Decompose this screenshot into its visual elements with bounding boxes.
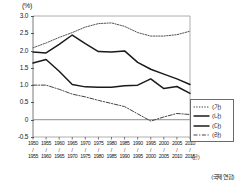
y-tick-mark	[31, 137, 34, 138]
legend-label: (가)	[212, 104, 221, 110]
series-line-1	[33, 35, 190, 84]
y-tick-label: -0.5	[8, 133, 28, 140]
legend-swatch-dotted	[193, 104, 210, 110]
y-tick-label: 0.5	[8, 98, 28, 105]
chart-container: (%) 3.02.52.01.51.00.50-0.5 1950/1955195…	[0, 0, 237, 183]
y-tick-label: 2.0	[8, 47, 28, 54]
y-tick-mark	[31, 85, 34, 86]
y-tick-mark	[31, 51, 34, 52]
y-tick-label: 2.5	[8, 29, 28, 36]
y-tick-mark	[31, 102, 34, 103]
x-axis-unit-label: (년)	[192, 153, 199, 160]
legend-swatch-solid	[193, 123, 210, 129]
y-tick-mark	[31, 16, 34, 17]
chart-legend: (가)(나)(다)(라)	[190, 99, 234, 142]
y-axis-unit-label: (%)	[22, 2, 32, 9]
y-tick-label: 3.0	[8, 12, 28, 19]
y-tick-label: 1.5	[8, 64, 28, 71]
series-line-0	[33, 23, 190, 48]
legend-item-1: (나)	[193, 112, 231, 122]
y-tick-label: 1.0	[8, 81, 28, 88]
legend-item-3: (라)	[193, 131, 231, 141]
legend-item-0: (가)	[193, 102, 231, 112]
legend-item-2: (다)	[193, 121, 231, 131]
series-line-3	[33, 85, 190, 121]
legend-label: (다)	[212, 123, 221, 129]
y-tick-mark	[31, 68, 34, 69]
legend-label: (나)	[212, 113, 221, 119]
source-note: (국제 연합)	[211, 172, 234, 181]
y-tick-mark	[31, 120, 34, 121]
y-tick-label: 0	[8, 116, 28, 123]
legend-label: (라)	[212, 132, 221, 138]
plot-frame	[33, 16, 190, 137]
legend-swatch-solid	[193, 113, 210, 119]
series-lines	[33, 23, 190, 121]
y-tick-mark	[31, 33, 34, 34]
legend-swatch-dashdot	[193, 132, 210, 138]
